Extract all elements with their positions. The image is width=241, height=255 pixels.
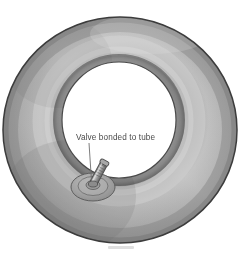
- cropped-caption-fragment: [108, 246, 134, 249]
- valve-stem-base: [88, 181, 97, 187]
- inner-tube-diagram: Valve bonded to tube: [0, 0, 241, 255]
- valve-label-text: Valve bonded to tube: [76, 133, 156, 142]
- figure-container: Valve bonded to tube: [0, 0, 241, 255]
